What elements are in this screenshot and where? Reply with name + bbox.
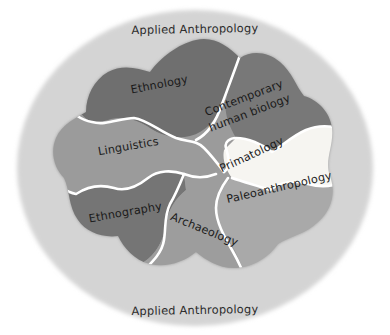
ring-label-top: Applied Anthropology <box>131 21 258 37</box>
ring-label-bottom: Applied Anthropology <box>131 302 258 318</box>
diagram-canvas: Applied Anthropology Applied Anthropolog… <box>0 0 390 335</box>
anthropology-subfields-diagram: Applied Anthropology Applied Anthropolog… <box>0 0 390 335</box>
